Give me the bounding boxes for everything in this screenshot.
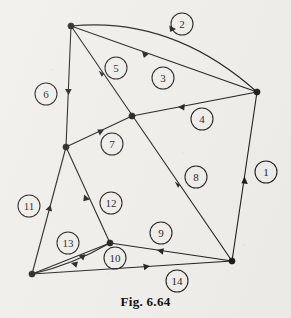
- arrow-head-edge-11: [46, 205, 53, 211]
- figure-caption: Fig. 6.64: [0, 294, 291, 310]
- vertex-B[interactable]: [254, 89, 260, 95]
- edge-6: [65, 26, 72, 147]
- edge-label-7[interactable]: 7: [101, 133, 123, 155]
- edge-1: [232, 92, 257, 261]
- edge-5: [71, 26, 232, 261]
- edge-label-1[interactable]: 1: [255, 161, 277, 183]
- edge-label-text-9: 9: [158, 227, 164, 239]
- vertex-E[interactable]: [107, 240, 113, 246]
- vertex-G[interactable]: [229, 258, 235, 264]
- arrow-head-edge-5: [99, 71, 104, 77]
- edge-label-text-8: 8: [193, 171, 199, 183]
- edge-label-6[interactable]: 6: [35, 83, 57, 105]
- edge-label-text-1: 1: [263, 166, 269, 178]
- arrow-head-edge-8: [175, 181, 180, 187]
- edge-9: [110, 243, 232, 261]
- edge-label-text-5: 5: [113, 62, 119, 74]
- edge-label-text-2: 2: [179, 18, 185, 30]
- edge-label-13[interactable]: 13: [57, 232, 79, 254]
- edge-label-text-12: 12: [106, 197, 117, 209]
- edge-label-4[interactable]: 4: [191, 108, 213, 130]
- figure-container: 1 2 3 4 5 6 7 8: [0, 0, 291, 318]
- arrow-head-edge-6: [65, 89, 72, 95]
- edge-label-text-14: 14: [172, 275, 184, 287]
- edge-label-11[interactable]: 11: [18, 195, 40, 217]
- edge-label-3[interactable]: 3: [152, 67, 174, 89]
- edge-label-8[interactable]: 8: [185, 166, 207, 188]
- vertex-D[interactable]: [63, 144, 69, 150]
- edge-label-12[interactable]: 12: [100, 192, 122, 214]
- vertex-F[interactable]: [29, 271, 35, 277]
- arrow-head-edge-7: [97, 130, 104, 136]
- vertex-C[interactable]: [129, 113, 135, 119]
- arrow-head-edge-10: [71, 261, 78, 267]
- edge-label-5[interactable]: 5: [105, 57, 127, 79]
- edge-label-text-3: 3: [160, 72, 166, 84]
- edge-label-text-4: 4: [199, 113, 205, 125]
- arrow-head-edge-9: [157, 248, 164, 255]
- vertex-A[interactable]: [68, 23, 74, 29]
- edge-label-2[interactable]: 2: [171, 13, 193, 35]
- edge-label-text-7: 7: [109, 138, 115, 150]
- arrow-head-edge-1: [241, 177, 247, 184]
- edge-label-text-10: 10: [110, 252, 122, 264]
- graph-canvas: 1 2 3 4 5 6 7 8: [0, 0, 291, 318]
- edge-label-9[interactable]: 9: [150, 222, 172, 244]
- arrow-head-edge-14: [143, 264, 150, 271]
- arrow-head-edge-4: [178, 104, 185, 111]
- edge-label-text-6: 6: [43, 88, 49, 100]
- edge-14: [32, 261, 232, 274]
- edge-label-text-13: 13: [63, 237, 75, 249]
- edge-label-14[interactable]: 14: [166, 270, 188, 292]
- edge-label-10[interactable]: 10: [104, 247, 126, 269]
- edge-label-text-11: 11: [24, 200, 35, 212]
